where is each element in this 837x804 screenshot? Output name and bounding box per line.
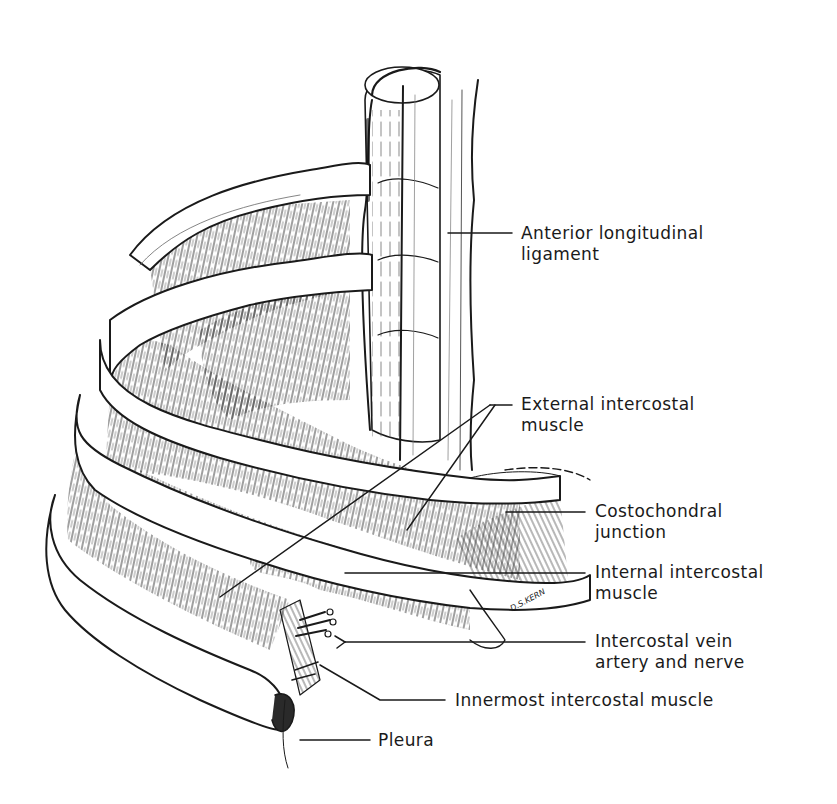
label-innermost-intercostal-muscle: Innermost intercostal muscle	[455, 690, 714, 711]
label-external-intercostal-muscle: External intercostal muscle	[521, 394, 695, 436]
label-text: External intercostal	[521, 394, 695, 415]
label-text: muscle	[521, 415, 695, 436]
label-intercostal-vein-artery-nerve: Intercostal vein artery and nerve	[595, 631, 745, 673]
label-text: Innermost intercostal muscle	[455, 690, 714, 711]
label-pleura: Pleura	[378, 730, 434, 751]
label-text: Internal intercostal	[595, 562, 764, 583]
leader-innermost-intercostal	[320, 665, 445, 700]
label-text: junction	[595, 522, 723, 543]
label-costochondral-junction: Costochondral junction	[595, 501, 723, 543]
label-text: Pleura	[378, 730, 434, 751]
neurovascular-bundle	[280, 600, 336, 768]
label-text: Anterior longitudinal	[521, 223, 704, 244]
label-internal-intercostal-muscle: Internal intercostal muscle	[595, 562, 764, 604]
label-text: muscle	[595, 583, 764, 604]
label-text: Costochondral	[595, 501, 723, 522]
label-text: artery and nerve	[595, 652, 745, 673]
rib-cage-illustration	[0, 0, 837, 804]
label-text: ligament	[521, 244, 704, 265]
label-anterior-longitudinal-ligament: Anterior longitudinal ligament	[521, 223, 704, 265]
label-text: Intercostal vein	[595, 631, 745, 652]
